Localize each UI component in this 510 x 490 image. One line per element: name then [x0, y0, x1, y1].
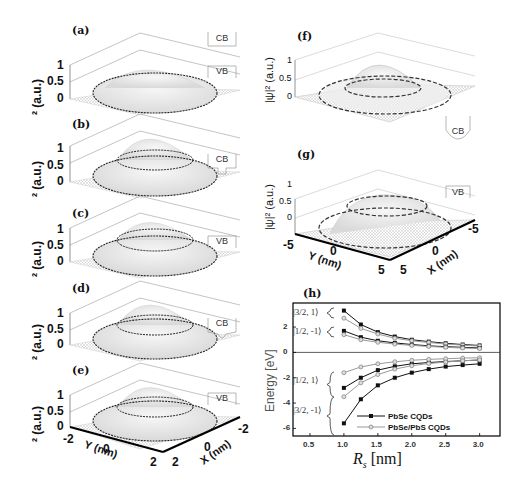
y-tick-label: -2: [283, 373, 290, 382]
x-tick-label: 3.0: [473, 440, 484, 449]
chart-y-axis-label: Energy [eV]: [263, 349, 277, 412]
state-label-1-2-neg1: |1/2, -1⟩: [293, 326, 322, 336]
y-tick-label: -6: [283, 423, 290, 432]
state-label-3-2-neg1: |3/2, -1⟩: [293, 405, 322, 415]
legend-pbse-pbs: PbSe/PbS CQDs: [388, 423, 450, 432]
x-tick-label: 0.5: [303, 440, 314, 449]
x-tick-label: 2.0: [405, 440, 416, 449]
energy-chart: [0, 0, 510, 490]
y-tick-label: -4: [283, 398, 290, 407]
y-tick-label: 0: [283, 347, 287, 356]
legend-pbse: PbSe CQDs: [388, 412, 432, 421]
y-tick-label: 2: [283, 322, 287, 331]
x-tick-label: 2.5: [439, 440, 450, 449]
x-tick-label: 1.5: [371, 440, 382, 449]
state-label-3-2-1: |3/2, 1⟩: [293, 307, 319, 317]
chart-x-axis-label: Rs [nm]: [353, 450, 402, 470]
x-tick-label: 1.0: [337, 440, 348, 449]
state-label-1-2-1: |1/2, 1⟩: [293, 375, 319, 385]
